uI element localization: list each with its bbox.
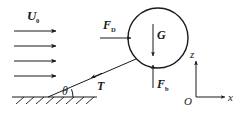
hatch-mark (56, 97, 64, 104)
coordinate-axes (196, 61, 225, 97)
hatch-mark (26, 97, 34, 104)
hatch-mark (36, 97, 44, 104)
gravity-force-label: G (157, 28, 166, 42)
hatch-mark (86, 97, 94, 104)
inflow-arrow-group (14, 31, 56, 76)
angle-theta-label: θ (62, 84, 68, 98)
hatch-mark (46, 97, 54, 104)
z-axis-label: z (189, 48, 195, 60)
hatch-mark (16, 97, 24, 104)
angle-arc (72, 89, 74, 97)
free-body-diagram: U 0 T θ (0, 0, 239, 121)
ground-support (12, 97, 97, 104)
buoyancy-force-label: F (156, 77, 165, 91)
origin-label: O (184, 95, 192, 107)
hatch-mark (76, 97, 84, 104)
tension-arrowhead (93, 73, 102, 77)
ground-hatching (16, 97, 94, 104)
inflow-velocity-subscript: 0 (36, 17, 39, 24)
drag-force-subscript: D (111, 26, 116, 33)
drag-force-label: F (102, 18, 111, 32)
tension-label: T (97, 79, 105, 93)
buoyancy-force-subscript: b (165, 85, 169, 92)
hatch-mark (66, 97, 74, 104)
x-axis-label: x (227, 91, 233, 103)
physics-diagram-canvas: U 0 T θ (0, 0, 239, 121)
